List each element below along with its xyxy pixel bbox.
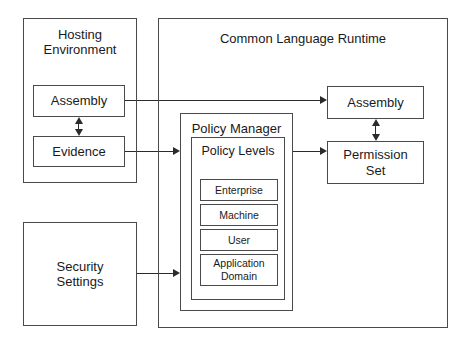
policy-level-machine: Machine [200, 204, 278, 226]
policy-level-application-domain-label: Application Domain [213, 257, 264, 282]
security-settings-label: Security Settings [57, 259, 104, 290]
evidence-box: Evidence [33, 136, 125, 167]
policy-level-enterprise: Enterprise [200, 179, 278, 201]
hosting-environment-label: Hosting Environment [24, 27, 136, 58]
policy-levels-label: Policy Levels [192, 144, 284, 159]
policy-level-enterprise-label: Enterprise [215, 184, 263, 197]
assembly-hosting-label: Assembly [51, 93, 107, 108]
security-settings-box: Security Settings [23, 222, 137, 326]
assembly-clr-box: Assembly [327, 86, 424, 119]
permission-set-box: Permission Set [327, 141, 424, 184]
common-language-runtime-label: Common Language Runtime [159, 31, 447, 46]
diagram-canvas: Hosting Environment Common Language Runt… [0, 0, 468, 346]
policy-manager-label: Policy Manager [181, 121, 292, 136]
policy-level-user: User [200, 229, 278, 251]
permission-set-label: Permission Set [343, 147, 407, 178]
policy-level-user-label: User [228, 234, 250, 247]
assembly-hosting-box: Assembly [33, 85, 125, 117]
policy-level-machine-label: Machine [219, 209, 259, 222]
evidence-label: Evidence [52, 144, 105, 159]
policy-level-application-domain: Application Domain [200, 254, 278, 286]
assembly-clr-label: Assembly [347, 95, 403, 110]
